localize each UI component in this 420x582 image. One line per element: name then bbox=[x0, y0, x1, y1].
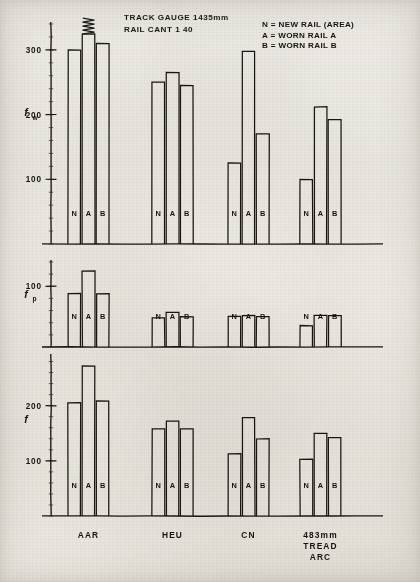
bar-letter-fw-483mm-TREAD-ARC-A: A bbox=[318, 209, 324, 218]
bar-letter-f-HEU-A: A bbox=[170, 481, 176, 490]
bar-fp-HEU-B bbox=[180, 317, 193, 347]
x-category-label-2: CN bbox=[241, 530, 255, 540]
bar-f-HEU-A bbox=[166, 421, 178, 516]
bar-letter-f-HEU-B: B bbox=[184, 481, 190, 490]
bar-fw-HEU-A bbox=[166, 72, 179, 244]
bar-letter-fw-AAR-B: B bbox=[100, 209, 106, 218]
y-axis-label-sub-fw: w bbox=[32, 114, 39, 121]
y-axis-f bbox=[51, 354, 52, 516]
bar-f-HEU-B bbox=[180, 429, 193, 516]
bar-fp-AAR-A bbox=[82, 271, 95, 347]
bar-letter-fp-AAR-A: A bbox=[86, 312, 92, 321]
legend-entry-2: B = WORN RAIL B bbox=[262, 41, 337, 50]
bar-letter-fp-483mm-TREAD-ARC-N: N bbox=[304, 312, 310, 321]
legend-entry-0: N = NEW RAIL (AREA) bbox=[262, 20, 354, 29]
bar-letter-f-AAR-A: A bbox=[86, 481, 92, 490]
bar-f-483mm-TREAD-ARC-B bbox=[328, 438, 340, 516]
bar-letter-f-AAR-N: N bbox=[72, 481, 78, 490]
y-tick-label-fp-100: 100 bbox=[26, 282, 42, 291]
bar-f-AAR-B bbox=[96, 401, 108, 516]
bar-letter-fw-CN-B: B bbox=[260, 209, 266, 218]
bar-letter-f-483mm-TREAD-ARC-B: B bbox=[332, 481, 338, 490]
bar-fw-CN-B bbox=[256, 134, 269, 244]
bar-letter-fp-HEU-N: N bbox=[156, 312, 162, 321]
bar-letter-fp-CN-N: N bbox=[232, 312, 238, 321]
y-tick-label-f-200: 200 bbox=[26, 402, 42, 411]
bar-letter-fw-AAR-N: N bbox=[72, 209, 78, 218]
bar-letter-fp-AAR-N: N bbox=[72, 312, 78, 321]
y-axis-label-f: f bbox=[24, 413, 29, 425]
x-category-label-3-line2: ARC bbox=[310, 552, 331, 562]
bar-letter-fw-483mm-TREAD-ARC-B: B bbox=[332, 209, 338, 218]
bar-f-CN-A bbox=[242, 418, 255, 516]
bar-fp-CN-B bbox=[256, 317, 269, 347]
bar-letter-f-CN-N: N bbox=[232, 481, 238, 490]
bar-letter-f-HEU-N: N bbox=[156, 481, 162, 490]
header-line-1: RAIL CANT 1 40 bbox=[124, 25, 193, 34]
bar-letter-fw-HEU-A: A bbox=[170, 209, 176, 218]
bar-letter-f-CN-B: B bbox=[260, 481, 266, 490]
y-tick-label-fw-100: 100 bbox=[26, 175, 42, 184]
bar-f-AAR-N bbox=[68, 403, 81, 516]
panel-fp bbox=[42, 260, 383, 347]
bar-fw-483mm-TREAD-ARC-B bbox=[328, 120, 341, 244]
bar-fp-483mm-TREAD-ARC-N bbox=[300, 326, 313, 347]
bar-fw-483mm-TREAD-ARC-A bbox=[314, 107, 327, 244]
bar-letter-fw-CN-N: N bbox=[232, 209, 238, 218]
header-line-0: TRACK GAUGE 1435mm bbox=[124, 13, 229, 22]
rail-wear-figure: TRACK GAUGE 1435mmRAIL CANT 1 40N = NEW … bbox=[0, 0, 420, 582]
legend-entry-1: A = WORN RAIL A bbox=[262, 31, 336, 40]
bar-letter-fp-AAR-B: B bbox=[100, 312, 106, 321]
bar-letter-fp-CN-A: A bbox=[246, 312, 252, 321]
y-tick-label-fw-300: 300 bbox=[26, 46, 42, 55]
bar-f-CN-B bbox=[257, 439, 270, 516]
bar-letter-fp-483mm-TREAD-ARC-B: B bbox=[332, 312, 338, 321]
x-category-label-3: 483mm bbox=[303, 530, 337, 540]
bar-letter-f-AAR-B: B bbox=[100, 481, 106, 490]
figure-canvas: TRACK GAUGE 1435mmRAIL CANT 1 40N = NEW … bbox=[0, 0, 420, 582]
bar-letter-fw-CN-A: A bbox=[246, 209, 252, 218]
x-category-label-0: AAR bbox=[78, 530, 99, 540]
x-category-label-3-line1: TREAD bbox=[303, 541, 337, 551]
bar-fp-HEU-N bbox=[152, 318, 165, 347]
bar-letter-f-483mm-TREAD-ARC-A: A bbox=[318, 481, 324, 490]
x-category-label-1: HEU bbox=[162, 530, 183, 540]
bar-letter-fp-HEU-A: A bbox=[170, 312, 176, 321]
bar-letter-fp-483mm-TREAD-ARC-A: A bbox=[318, 312, 324, 321]
bar-letter-fp-CN-B: B bbox=[260, 312, 266, 321]
bar-fw-HEU-B bbox=[180, 85, 193, 244]
panel-f bbox=[42, 354, 383, 516]
bar-letter-fw-483mm-TREAD-ARC-N: N bbox=[304, 209, 310, 218]
bar-letter-fw-HEU-B: B bbox=[184, 209, 190, 218]
bar-letter-f-CN-A: A bbox=[246, 481, 252, 490]
bar-letter-f-483mm-TREAD-ARC-N: N bbox=[304, 481, 310, 490]
y-axis-fw bbox=[51, 22, 52, 244]
bar-f-AAR-A bbox=[82, 366, 95, 516]
y-tick-label-f-100: 100 bbox=[26, 457, 42, 466]
bar-fp-CN-N bbox=[228, 316, 240, 347]
bar-letter-fw-AAR-A: A bbox=[86, 209, 92, 218]
bar-f-483mm-TREAD-ARC-A bbox=[314, 433, 327, 516]
bar-letter-fp-HEU-B: B bbox=[184, 312, 190, 321]
bar-letter-fw-HEU-N: N bbox=[156, 209, 162, 218]
y-axis-label-sub-fp: p bbox=[33, 295, 37, 303]
bar-fw-CN-N bbox=[228, 163, 241, 244]
bar-f-HEU-N bbox=[152, 429, 165, 516]
bar-break-symbol-fw-AAR bbox=[82, 18, 94, 34]
bar-fw-HEU-N bbox=[152, 82, 165, 244]
